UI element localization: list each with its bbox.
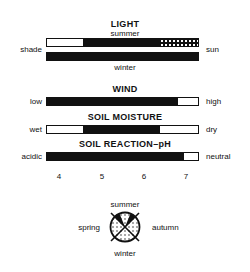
wind-title: WIND [0, 84, 250, 94]
moisture-solid-segment [83, 126, 160, 133]
season-spring-label: spring [60, 223, 100, 232]
wet-label: wet [2, 125, 42, 134]
season-autumn-label: autumn [152, 223, 179, 232]
summer-solid-segment [83, 39, 160, 46]
light-summer-bar [46, 38, 199, 47]
ph-tick-6: 6 [138, 172, 150, 181]
season-winter-label: winter [100, 249, 150, 258]
ph-solid-segment [47, 153, 184, 160]
soil-moisture-bar [46, 125, 199, 134]
sun-label: sun [206, 45, 219, 54]
ph-tick-5: 5 [96, 172, 108, 181]
wind-bar [46, 97, 199, 106]
summer-dotted-segment [160, 39, 198, 46]
shade-label: shade [2, 45, 42, 54]
soil-moisture-title: SOIL MOISTURE [0, 112, 250, 122]
ph-tick-4: 4 [53, 172, 65, 181]
dry-label: dry [206, 125, 217, 134]
high-label: high [206, 97, 221, 106]
ph-tick-7: 7 [180, 172, 192, 181]
season-summer-label: summer [100, 200, 150, 209]
soil-reaction-title: SOIL REACTION–pH [0, 139, 250, 149]
neutral-label: neutral [206, 152, 230, 161]
summer-label: summer [0, 29, 250, 38]
low-label: low [2, 97, 42, 106]
winter-label: winter [0, 63, 250, 72]
winter-solid-segment [47, 53, 198, 60]
light-title: LIGHT [0, 19, 250, 29]
season-wheel [107, 209, 143, 245]
wind-solid-segment [47, 98, 178, 105]
light-winter-bar [46, 52, 199, 61]
acidic-label: acidic [2, 152, 42, 161]
soil-reaction-bar [46, 152, 199, 161]
